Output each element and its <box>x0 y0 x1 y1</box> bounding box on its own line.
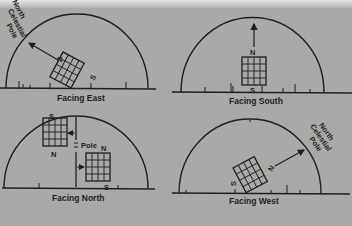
caption: Facing North <box>52 193 104 203</box>
horizon <box>0 81 156 89</box>
caption: Facing South <box>229 96 283 106</box>
pole-arrow <box>29 43 58 60</box>
lower-grid-label-s: S <box>104 183 109 192</box>
grid-label-n: N <box>57 55 62 64</box>
upper-grid-label-n: N <box>51 150 56 159</box>
celestial-pole-diagram: North Celestial Pole N S Facing East N S… <box>0 0 352 226</box>
grid-label-n: N <box>250 48 255 57</box>
grid-label-s: S <box>229 181 238 186</box>
caption: Facing East <box>57 93 105 103</box>
upper-grid-label-s: S <box>49 112 54 121</box>
panel-facing-east: North Celestial Pole N S Facing East <box>0 0 156 103</box>
sky-dome <box>179 119 321 193</box>
star-grid <box>233 157 267 193</box>
grid-label-n: N <box>266 164 277 173</box>
pole-marker <box>74 143 78 147</box>
pole-arrow <box>275 150 304 166</box>
panel-facing-west: North Celestial Pole N S Facing West <box>172 118 350 206</box>
star-grid <box>242 57 266 85</box>
star-grid-lower <box>86 153 110 181</box>
pole-label: North Celestial Pole <box>0 0 35 43</box>
panel-facing-south: N S Facing South <box>172 17 352 106</box>
horizon <box>172 185 350 194</box>
caption: Facing West <box>229 196 279 206</box>
pole-label: North Celestial Pole <box>302 118 340 158</box>
lower-grid-label-n: N <box>101 144 106 153</box>
horizon <box>2 183 155 189</box>
panel-facing-north: Pole S N N S Facing North <box>2 112 155 203</box>
pole-label: Pole <box>81 141 97 150</box>
grid-label-s: S <box>250 86 255 95</box>
grid-label-s: S <box>88 73 98 82</box>
star-grid <box>50 52 84 88</box>
